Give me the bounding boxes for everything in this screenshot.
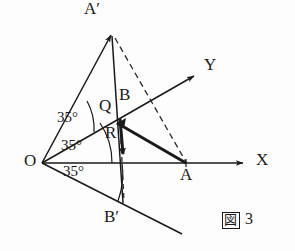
point-label-Q: Q [99,97,111,114]
point-label-A-prime: A′ [84,0,100,17]
point-label-O: O [24,152,36,169]
figure-caption-number: 3 [245,210,254,227]
angle-label-lower: 35° [63,164,84,179]
point-label-R: R [105,124,116,141]
figure-caption: 図3 [222,211,254,229]
axis-label-y: Y [204,56,216,73]
point-label-B: B [119,86,130,103]
angle-label-upper: 35° [57,110,78,125]
point-label-B-prime: B′ [104,208,119,225]
figure-container: O A B Q R A′ B′ X Y 35° 35° 35° 図3 [0,0,295,251]
axis-label-x: X [256,151,268,168]
angle-label-middle: 35° [61,138,82,153]
point-label-A: A [180,166,192,183]
angle-arc-upper [87,101,94,132]
figure-caption-symbol: 図 [222,212,240,229]
